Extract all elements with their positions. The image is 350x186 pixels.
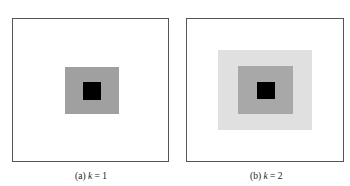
panel-b-black-square bbox=[257, 82, 275, 99]
caption-b-eq: = 2 bbox=[268, 171, 283, 181]
panel-b-caption: (b) k = 2 bbox=[250, 171, 283, 181]
panel-a-frame bbox=[12, 18, 169, 162]
caption-a-eq: = 1 bbox=[92, 171, 107, 181]
panel-b-frame bbox=[186, 18, 344, 162]
caption-a-label: (a) bbox=[75, 171, 86, 181]
caption-b-label: (b) bbox=[250, 171, 261, 181]
panel-a-caption: (a) k = 1 bbox=[75, 171, 107, 181]
panel-a-black-square bbox=[83, 82, 101, 100]
